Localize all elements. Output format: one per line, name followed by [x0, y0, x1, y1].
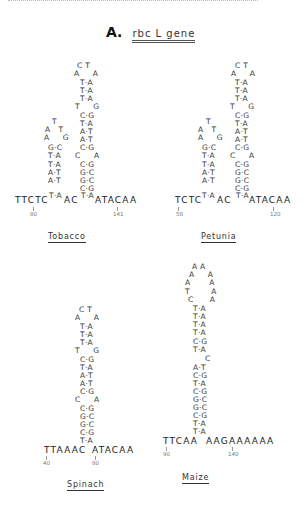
tobacco-bulge-2: C A: [75, 152, 99, 160]
tobacco-small-stem: T·A: [48, 152, 61, 160]
petunia-between: AC: [217, 196, 232, 204]
petunia-bulge-2: C A: [230, 152, 254, 160]
tobacco-bottom-left-pair: T·A: [49, 192, 62, 200]
species-label-petunia: Petunia: [201, 232, 236, 243]
spinach-bulge-2: C A: [75, 396, 99, 404]
tobacco-between: AC: [64, 196, 79, 204]
maize-bulge: C: [205, 355, 211, 363]
maize-num-left: 90: [163, 451, 170, 457]
species-label-tobacco: Tobacco: [48, 232, 86, 243]
petunia-left-seq: TCTC: [175, 196, 202, 204]
clipped-previous-text: [8, 0, 258, 3]
spinach-bulge-1: T G: [75, 347, 99, 355]
tobacco-left-seq: TTCTC: [15, 196, 49, 204]
tobacco-bottom-right-pair: T·A: [81, 192, 94, 200]
spinach-left-seq: TTAAAC: [44, 446, 86, 454]
petunia-small-loop: A G: [198, 134, 223, 142]
maize-stem: T·A: [193, 329, 206, 337]
petunia-right-seq: ATACAA: [249, 196, 291, 204]
petunia-big-loop-2: A A: [231, 70, 255, 78]
petunia-num-left: 58: [176, 211, 183, 217]
tobacco-right-seq: ATACAA: [95, 196, 137, 204]
tobacco-num-right: 141: [113, 211, 124, 217]
spinach-right-seq: ATACAA: [92, 446, 134, 454]
figure-label: A.: [106, 24, 122, 40]
species-label-maize: Maize: [182, 473, 209, 484]
gene-name: rbc L gene: [132, 28, 195, 43]
maize-loop: A A: [185, 279, 215, 287]
maize-right-seq: AAGAAAAAA: [206, 437, 274, 445]
petunia-bottom-right-pair: T·A: [236, 192, 249, 200]
tobacco-bulge-1: T G: [75, 103, 99, 111]
species-label-spinach: Spinach: [67, 480, 104, 491]
maize-stem: T·A: [193, 428, 206, 436]
spinach-num-right: 80: [92, 460, 99, 466]
petunia-small-stem: T·A: [202, 152, 215, 160]
petunia-bottom-left-pair: T·A: [202, 192, 215, 200]
maize-num-right: 140: [228, 451, 239, 457]
figure-title: A. rbc L gene: [106, 24, 195, 43]
maize-loop: C A: [188, 296, 215, 304]
tobacco-num-left: 80: [30, 211, 37, 217]
tobacco-small-stem: A·T: [48, 177, 61, 185]
petunia-num-right: 120: [270, 211, 281, 217]
tobacco-small-loop: A G: [44, 134, 69, 142]
maize-stem: T·A: [193, 346, 206, 354]
spinach-loop-2: A A: [75, 314, 99, 322]
petunia-bulge-1: T G: [230, 103, 254, 111]
tobacco-big-loop-2: A A: [74, 70, 98, 78]
spinach-stem: T·A: [80, 437, 93, 445]
petunia-small-stem: A·T: [202, 177, 215, 185]
maize-left-seq: TTCAA: [163, 437, 198, 445]
spinach-num-left: 40: [43, 460, 50, 466]
